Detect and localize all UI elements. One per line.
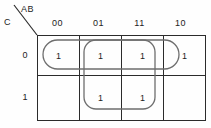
table-row: 1 1 1 1 (38, 36, 206, 76)
kmap-cell-r1c2: 1 (122, 76, 164, 121)
column-header-0: 00 (37, 18, 78, 28)
kmap-cell-r1c3 (164, 76, 206, 121)
kmap-cell-r1c0 (38, 76, 80, 121)
kmap-cell-r0c2: 1 (122, 36, 164, 76)
column-header-3: 10 (160, 18, 201, 28)
kmap-cell-r0c3: 1 (164, 36, 206, 76)
kmap-cell-r0c0: 1 (38, 36, 80, 76)
column-header-2: 11 (119, 18, 160, 28)
column-variables-label: AB (21, 4, 34, 14)
kmap-grid: 1 1 1 1 1 1 (37, 35, 202, 120)
row-variables-label: C (4, 17, 11, 27)
row-header-1: 1 (18, 92, 32, 102)
row-header-0: 0 (18, 50, 32, 60)
column-header-1: 01 (78, 18, 119, 28)
kmap-cell-r0c1: 1 (80, 36, 122, 76)
karnaugh-map-diagram: AB C 00 01 11 10 0 1 1 1 1 1 1 1 (0, 0, 211, 128)
kmap-corner-header: AB C (0, 0, 40, 36)
table-row: 1 1 (38, 76, 206, 121)
kmap-cell-r1c1: 1 (80, 76, 122, 121)
